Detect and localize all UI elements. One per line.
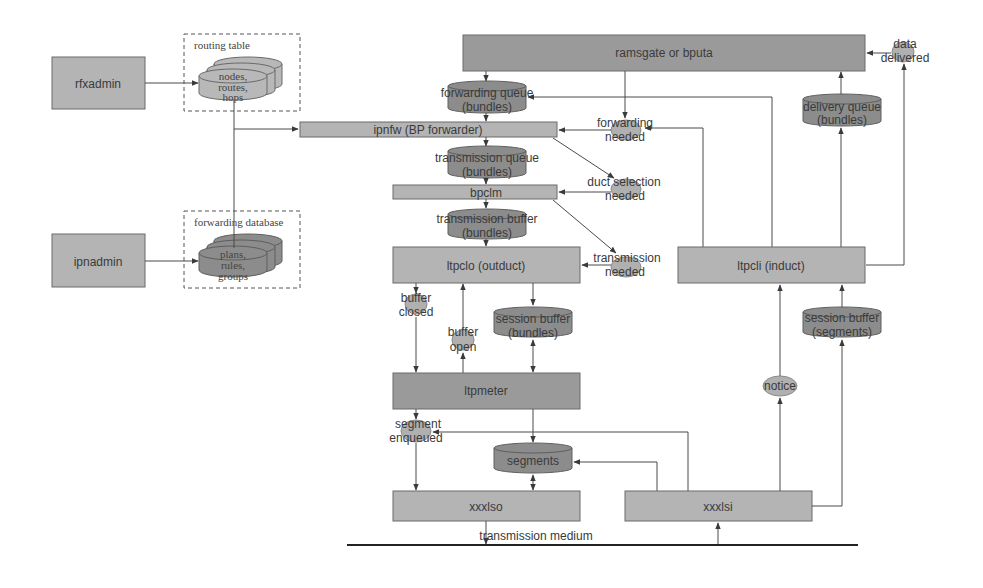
ltpclo-outduct-box: ltpclo (outduct) — [393, 247, 580, 283]
transmission-buffer-cylinder: transmission buffer (bundles) — [436, 209, 537, 240]
svg-text:ltpcli (induct): ltpcli (induct) — [737, 259, 804, 273]
svg-text:segments: segments — [507, 454, 559, 468]
rfxadmin-box: rfxadmin — [52, 57, 145, 109]
svg-text:data: data — [893, 37, 917, 51]
session-buffer-segments-cylinder: session buffer (segments) — [803, 307, 881, 339]
svg-text:needed: needed — [605, 130, 645, 144]
svg-text:(segments): (segments) — [812, 325, 872, 339]
transmission-medium: transmission medium — [347, 529, 858, 545]
delivery-queue-cylinder: delivery queue (bundles) — [803, 94, 881, 127]
bpclm-box: bpclm — [393, 185, 557, 200]
segments-cylinder: segments — [494, 443, 572, 473]
svg-text:closed: closed — [399, 305, 434, 319]
svg-text:forwarding database: forwarding database — [194, 216, 284, 228]
svg-text:delivery queue: delivery queue — [803, 100, 881, 114]
svg-text:transmission: transmission — [593, 251, 660, 265]
svg-text:routing table: routing table — [194, 39, 250, 51]
data-delivered-event: data delivered — [881, 37, 930, 65]
svg-text:(bundles): (bundles) — [508, 326, 558, 340]
svg-text:ltpmeter: ltpmeter — [464, 384, 507, 398]
routing-table-group: routing table nodes, routes, hops — [184, 34, 300, 111]
svg-text:notice: notice — [764, 379, 796, 393]
duct-selection-needed-event: duct selection needed — [587, 175, 660, 203]
session-buffer-bundles-cylinder: session buffer (bundles) — [494, 307, 572, 340]
svg-text:needed: needed — [605, 265, 645, 279]
svg-text:session buffer: session buffer — [805, 311, 880, 325]
svg-text:enqueued: enqueued — [389, 431, 442, 445]
svg-text:forwarding: forwarding — [597, 116, 653, 130]
svg-text:segment: segment — [395, 417, 442, 431]
notice-event: notice — [763, 376, 797, 396]
buffer-closed-event: buffer closed — [399, 291, 434, 319]
ltpcli-induct-box: ltpcli (induct) — [678, 247, 865, 283]
segment-enqueued-event: segment enqueued — [389, 417, 442, 445]
svg-text:(bundles): (bundles) — [462, 165, 512, 179]
svg-text:buffer: buffer — [401, 291, 431, 305]
svg-text:duct selection: duct selection — [587, 175, 660, 189]
xxxlsi-box: xxxlsi — [625, 491, 812, 521]
svg-text:(bundles): (bundles) — [462, 100, 512, 114]
buffer-open-event: buffer open — [448, 325, 478, 354]
forwarding-queue-cylinder: forwarding queue (bundles) — [441, 81, 534, 114]
svg-text:xxxlso: xxxlso — [469, 500, 503, 514]
svg-text:ramsgate or bputa: ramsgate or bputa — [615, 46, 713, 60]
svg-text:open: open — [450, 340, 477, 354]
svg-text:xxxlsi: xxxlsi — [703, 500, 732, 514]
ipnfw-box: ipnfw (BP forwarder) — [300, 122, 557, 137]
ramsgate-bputa-box: ramsgate or bputa — [463, 35, 865, 71]
svg-text:needed: needed — [605, 189, 645, 203]
ion-ltp-architecture-diagram: rfxadmin ipnadmin routing table nodes, r… — [0, 0, 983, 588]
svg-text:ipnfw (BP forwarder): ipnfw (BP forwarder) — [373, 123, 482, 137]
svg-text:(bundles): (bundles) — [462, 226, 512, 240]
ltpmeter-box: ltpmeter — [393, 373, 580, 409]
svg-text:ltpclo (outduct): ltpclo (outduct) — [447, 259, 526, 273]
svg-text:hops: hops — [223, 91, 244, 103]
svg-text:forwarding queue: forwarding queue — [441, 86, 534, 100]
svg-text:transmission buffer: transmission buffer — [436, 212, 537, 226]
forwarding-database-group: forwarding database plans, rules, groups — [184, 211, 300, 288]
svg-text:transmission medium: transmission medium — [479, 529, 592, 543]
svg-text:transmission queue: transmission queue — [435, 151, 539, 165]
svg-text:groups: groups — [218, 270, 248, 282]
svg-text:ipnadmin: ipnadmin — [74, 255, 123, 269]
svg-text:rfxadmin: rfxadmin — [75, 77, 121, 91]
svg-text:bpclm: bpclm — [470, 186, 502, 200]
svg-text:session buffer: session buffer — [496, 312, 571, 326]
xxxlso-box: xxxlso — [393, 491, 580, 521]
svg-text:(bundles): (bundles) — [817, 113, 867, 127]
transmission-queue-cylinder: transmission queue (bundles) — [435, 146, 539, 179]
ipnadmin-box: ipnadmin — [52, 234, 145, 287]
